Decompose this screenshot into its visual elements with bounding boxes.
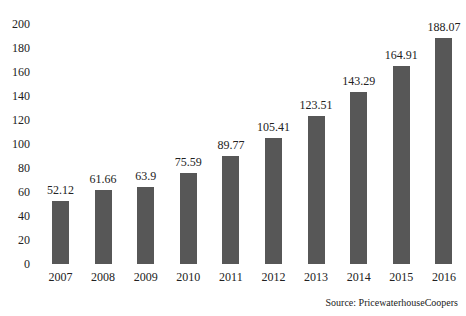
- y-tick-label: 200: [0, 18, 30, 30]
- value-label: 188.07: [414, 21, 466, 33]
- value-label: 105.41: [244, 121, 304, 133]
- bar-2014: [350, 92, 367, 264]
- bar-2012: [265, 138, 282, 264]
- y-tick-label: 40: [0, 210, 30, 222]
- source-note: Source: PricewaterhouseCoopers: [326, 298, 458, 308]
- bar-2011: [222, 156, 239, 264]
- y-tick-label: 0: [0, 258, 30, 270]
- y-tick-label: 100: [0, 138, 30, 150]
- y-tick-label: 140: [0, 90, 30, 102]
- bar-2013: [308, 116, 325, 264]
- value-label: 123.51: [286, 99, 346, 111]
- value-label: 89.77: [201, 139, 261, 151]
- bar-2007: [52, 201, 69, 264]
- bar-2009: [137, 187, 154, 264]
- bar-2015: [393, 66, 410, 264]
- y-tick-label: 20: [0, 234, 30, 246]
- value-label: 75.59: [158, 156, 218, 168]
- y-tick-label: 80: [0, 162, 30, 174]
- bar-2016: [435, 38, 452, 264]
- y-tick-label: 60: [0, 186, 30, 198]
- value-label: 63.9: [116, 170, 176, 182]
- bar-2008: [95, 190, 112, 264]
- y-tick-label: 120: [0, 114, 30, 126]
- y-tick-label: 160: [0, 66, 30, 78]
- value-label: 52.12: [31, 184, 91, 196]
- value-label: 143.29: [329, 75, 389, 87]
- y-tick-label: 180: [0, 42, 30, 54]
- bar-2010: [180, 173, 197, 264]
- x-tick-label: 2016: [414, 271, 466, 283]
- value-label: 164.91: [371, 49, 431, 61]
